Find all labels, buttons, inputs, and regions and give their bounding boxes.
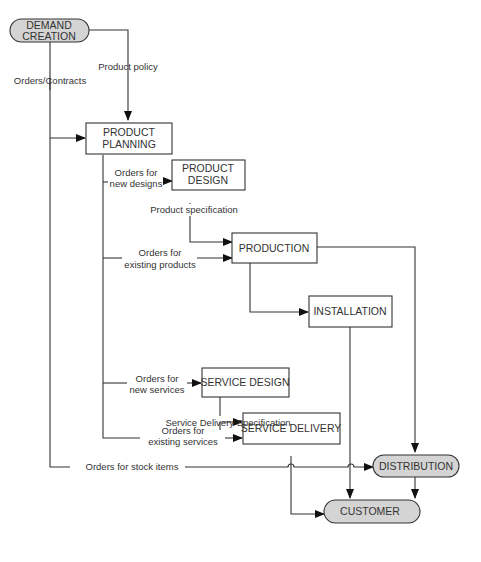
edge-orders-stock-items	[185, 464, 373, 467]
node-label: PRODUCT	[182, 162, 235, 174]
edge-production-installation	[250, 263, 308, 312]
node-service-design: SERVICE DESIGN	[200, 368, 289, 397]
node-label: CUSTOMER	[340, 505, 400, 517]
label-orders-existing-products-1: Orders for	[139, 247, 182, 258]
node-product-design: PRODUCT DESIGN	[172, 160, 245, 190]
node-label: SERVICE DESIGN	[200, 376, 289, 388]
label-orders-new-designs-2: new designs	[110, 178, 163, 189]
label-product-specification: Product specification	[150, 204, 238, 215]
node-label: DISTRIBUTION	[379, 460, 453, 472]
node-label: DESIGN	[188, 174, 228, 186]
label-orders-existing-products-2: existing products	[124, 259, 196, 270]
label-orders-existing-services-2: existing services	[148, 436, 218, 447]
flow-diagram: DEMAND CREATION PRODUCT PLANNING PRODUCT…	[0, 0, 481, 562]
node-customer: CUSTOMER	[324, 500, 420, 523]
connectors	[50, 30, 415, 514]
label-orders-contracts: Orders/Contracts	[14, 75, 87, 86]
node-label: INSTALLATION	[313, 305, 386, 317]
edge-product-policy	[89, 30, 128, 120]
label-orders-new-designs-1: Orders for	[115, 167, 158, 178]
node-label: PRODUCT	[103, 126, 156, 138]
node-installation: INSTALLATION	[309, 296, 392, 327]
node-product-planning: PRODUCT PLANNING	[86, 123, 172, 154]
label-product-policy: Product policy	[98, 61, 158, 72]
edge-orders-contracts	[50, 42, 70, 467]
label-orders-new-services-2: new services	[130, 384, 185, 395]
node-production: PRODUCTION	[232, 233, 317, 263]
edge-service-delivery-customer	[291, 456, 324, 514]
label-orders-new-services-1: Orders for	[136, 373, 179, 384]
label-orders-existing-services-1: Orders for	[162, 425, 205, 436]
node-demand-creation: DEMAND CREATION	[10, 19, 89, 42]
edge-planning-trunk	[103, 155, 140, 438]
node-label: PLANNING	[102, 138, 156, 150]
label-orders-stock-items: Orders for stock items	[86, 461, 179, 472]
node-distribution: DISTRIBUTION	[373, 455, 459, 477]
node-label: PRODUCTION	[239, 242, 310, 254]
node-label: CREATION	[22, 30, 75, 42]
